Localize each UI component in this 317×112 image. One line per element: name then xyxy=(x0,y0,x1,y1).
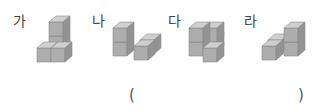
answer-open-paren: ( xyxy=(129,88,135,103)
figure-da xyxy=(189,22,224,62)
answer-blank[interactable] xyxy=(140,88,295,106)
figure-ra xyxy=(262,22,305,60)
answer-close-paren: ) xyxy=(298,88,304,103)
figure-ga xyxy=(37,16,72,62)
figure-na xyxy=(113,22,161,60)
